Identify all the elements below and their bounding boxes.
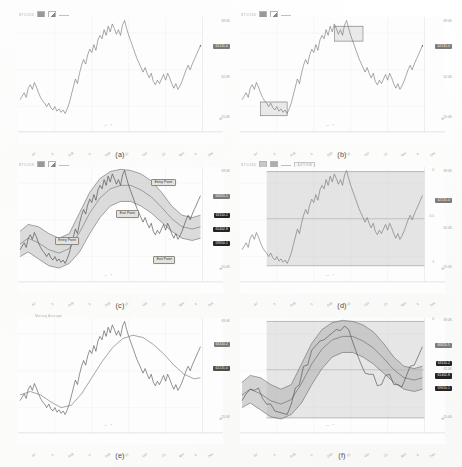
panel-c: BTCUSD xyxy=(9,160,231,310)
y-axis-label: 62.0K xyxy=(443,227,452,230)
y-axis-label: 55.0K xyxy=(221,266,230,269)
chart-area-b: 62131.0 69.0K 62.0K 55.0K » — ▪ Jul 5 Au… xyxy=(240,17,445,143)
y-axis-label: 69.0K xyxy=(221,320,230,323)
panel-a: BTCUSD xyxy=(9,10,231,160)
fib-level-label: 0 xyxy=(432,169,434,172)
forward-arrow-icon: » xyxy=(441,116,444,121)
y-axis-label: 55.0K xyxy=(221,416,230,419)
chart-area-c: Entry Point Exit Point Entry Point Exit … xyxy=(18,167,223,293)
legend-line-icon xyxy=(59,15,69,16)
panel-caption: (a) xyxy=(9,150,231,159)
price-tag: 63110.2 xyxy=(214,342,230,347)
price-tag: 66820.5 xyxy=(213,194,230,199)
y-axis-label: 62.0K xyxy=(443,368,452,371)
price-tag: 61402.8 xyxy=(213,227,230,232)
chart-svg-f xyxy=(240,318,445,444)
price-tag: 66820.5 xyxy=(435,343,452,348)
fib-level-label: 0 xyxy=(432,318,434,321)
forward-arrow-icon: » xyxy=(219,116,222,121)
y-axis-label: 69.0K xyxy=(443,319,452,322)
y-axis-label: 55.0K xyxy=(221,116,230,119)
panel-b: BTCUSD xyxy=(231,10,453,160)
price-tag: 62131.0 xyxy=(435,44,452,49)
chart-area-e: 63110.2 62131.0 69.0K 55.0K » — ▪ Jul 5 … xyxy=(18,318,223,444)
chart-area-a: 62131.0 69.0K 62.0K 55.0K » — ▪ Jul 5 Au… xyxy=(18,17,223,143)
y-axis-label: 62.0K xyxy=(221,76,230,79)
panel-caption: (b) xyxy=(231,150,453,159)
chart-svg-c xyxy=(18,167,223,293)
entry-point-callout-2: Entry Point xyxy=(151,179,175,187)
chart-svg-d xyxy=(240,167,445,293)
forward-arrow-icon: » xyxy=(219,416,222,421)
y-axis-label: 69.0K xyxy=(443,20,452,23)
chart-area-d: 62131.0 0 0.5 1 69.0K 62.0K 55.0K » — ▪ … xyxy=(240,167,445,293)
fib-level-label: 0.5 xyxy=(429,215,434,218)
fib-level-label: 1 xyxy=(432,261,434,264)
center-mark: — ▪ xyxy=(326,124,335,127)
forward-arrow-icon: » xyxy=(441,416,444,421)
price-tag: 63110.2 xyxy=(436,361,452,366)
y-axis-label: 69.0K xyxy=(443,170,452,173)
y-axis-label: 69.0K xyxy=(221,20,230,23)
chart-svg-a xyxy=(18,17,223,143)
exit-point-callout-1: Exit Point xyxy=(116,210,138,218)
y-axis-label: 55.0K xyxy=(443,416,452,419)
forward-arrow-icon: » xyxy=(219,266,222,271)
center-mark: — ▪ xyxy=(104,124,113,127)
price-tag: 63110.2 xyxy=(214,213,230,218)
panel-f: 66820.5 63110.2 61402.8 59650.1 0 69.0K … xyxy=(231,311,453,461)
panel-caption: (c) xyxy=(9,301,231,310)
forward-arrow-icon: » xyxy=(441,266,444,271)
price-tag: 62131.0 xyxy=(213,44,230,49)
panel-e: Moving Average xyxy=(9,311,231,461)
panel-caption: (d) xyxy=(231,301,453,310)
y-axis-label: 55.0K xyxy=(443,116,452,119)
y-axis-label: 62.0K xyxy=(443,76,452,79)
chart-svg-e xyxy=(18,318,223,444)
center-mark: — ▪ xyxy=(326,274,335,277)
y-axis-label: 69.0K xyxy=(221,170,230,173)
legend-line-icon xyxy=(281,15,291,16)
panel-caption: (f) xyxy=(231,451,453,460)
center-mark: — ▪ xyxy=(104,274,113,277)
entry-point-callout-1: Entry Point xyxy=(55,237,79,245)
price-tag: 62131.0 xyxy=(213,366,230,371)
legend-line-icon xyxy=(59,165,69,166)
price-tag: 61402.8 xyxy=(435,373,452,378)
panel-d: BTCUSD AUTOFIB xyxy=(231,160,453,310)
price-tag: 59650.1 xyxy=(435,386,452,391)
chart-svg-b xyxy=(240,17,445,143)
price-tag: 59650.1 xyxy=(213,241,230,246)
center-mark: — ▪ xyxy=(326,424,335,427)
chart-area-f: 66820.5 63110.2 61402.8 59650.1 0 69.0K … xyxy=(240,318,445,444)
center-mark: — ▪ xyxy=(104,424,113,427)
legend-line-icon xyxy=(281,165,291,166)
y-axis-label: 55.0K xyxy=(443,266,452,269)
price-tag: 62131.0 xyxy=(435,198,452,203)
exit-point-callout-2: Exit Point xyxy=(153,256,175,264)
panel-caption: (e) xyxy=(9,451,231,460)
figure-panel-grid: BTCUSD xyxy=(0,0,462,467)
